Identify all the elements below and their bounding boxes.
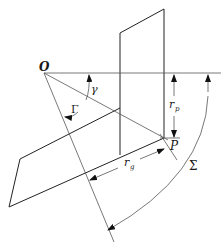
svg-text:p: p	[175, 105, 180, 113]
label-rg: r g	[124, 156, 135, 171]
line-o-to-p	[44, 73, 168, 140]
label-origin: O	[39, 60, 50, 74]
line-o-downward	[44, 73, 114, 242]
label-point: P	[169, 139, 179, 153]
label-sigma: Σ	[189, 159, 197, 173]
diagram-canvas: O P γ Γ Σ r p r g	[0, 0, 224, 242]
svg-text:g: g	[130, 163, 135, 171]
label-gamma-capital: Γ	[71, 103, 79, 116]
label-gamma-small: γ	[91, 83, 98, 96]
vertical-plane	[120, 9, 164, 155]
inclined-plane	[9, 108, 164, 207]
label-rp: r p	[169, 98, 180, 113]
